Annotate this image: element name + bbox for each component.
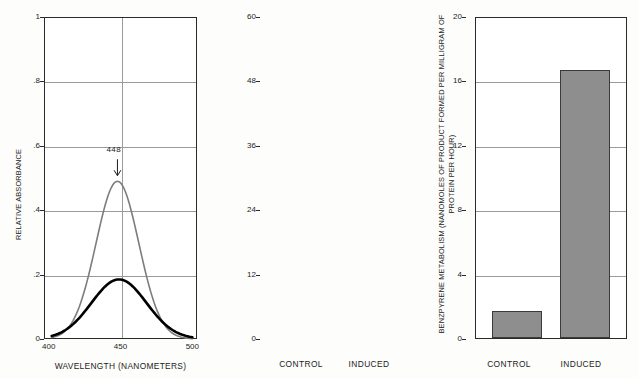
category-label-induced: INDUCED [329,359,409,369]
figure-three-panel: RELATIVE ABSORBANCE 448 WAVELENGTH (NANO… [0,0,639,379]
y-tick-label-panel-1: .2 [14,270,40,279]
panel-benzpyrene-nanomoles: BENZPYRENE METABOLISM (NANOMOLES OF PROD… [215,0,422,379]
panel-absorbance-spectrum: RELATIVE ABSORBANCE 448 WAVELENGTH (NANO… [0,0,215,379]
y-tick-mark-panel-3 [462,339,466,340]
peak-annotation-label: 448 [106,145,121,154]
y-tick-mark-panel-3 [462,17,466,18]
y-tick-label-panel-2: 12 [230,270,256,279]
y-tick-label-panel-3: 0 [436,334,462,343]
x-tick-label-panel-1: 450 [111,342,131,351]
y-tick-label-panel-3: 16 [436,76,462,85]
y-tick-mark-panel-3 [462,81,466,82]
panel-benzpyrene-picomoles: BENZPYRENE METABOLISM (PICOMOLES OF PROD… [422,0,639,379]
y-tick-mark-panel-2 [256,81,260,82]
y-tick-label-panel-2: 0 [230,334,256,343]
y-tick-label-panel-3: 12 [436,141,462,150]
y-tick-label-panel-3: 4 [436,270,462,279]
y-tick-label-panel-2: 36 [230,141,256,150]
y-tick-mark-panel-2 [256,275,260,276]
y-tick-mark-panel-3 [462,210,466,211]
y-tick-label-panel-2: 60 [230,12,256,21]
y-tick-mark-panel-3 [462,146,466,147]
y-tick-label-panel-1: 0 [14,334,40,343]
spectrum-curve-control [52,279,193,337]
category-label-induced: INDUCED [541,359,621,369]
y-tick-label-panel-1: 1 [14,12,40,21]
y-tick-mark-panel-2 [256,146,260,147]
y-tick-mark-panel-2 [256,17,260,18]
y-tick-label-panel-2: 24 [230,205,256,214]
y-tick-mark-panel-1 [40,339,44,340]
y-tick-mark-panel-1 [40,81,44,82]
y-tick-label-panel-1: .8 [14,76,40,85]
spectrum-curve-induced [52,181,193,338]
x-tick-label-panel-1: 500 [179,342,199,351]
y-tick-mark-panel-2 [256,210,260,211]
y-tick-label-panel-2: 48 [230,76,256,85]
y-tick-mark-panel-1 [40,210,44,211]
y-tick-label-panel-3: 20 [436,12,462,21]
y-tick-label-panel-3: 8 [436,205,462,214]
y-tick-mark-panel-1 [40,17,44,18]
category-label-control: CONTROL [469,359,549,369]
x-tick-label-panel-1: 400 [42,342,62,351]
y-tick-mark-panel-3 [462,275,466,276]
y-tick-label-panel-1: .4 [14,205,40,214]
y-tick-label-panel-1: .6 [14,141,40,150]
y-tick-mark-panel-1 [40,275,44,276]
peak-annotation-arrow-icon [114,159,121,176]
x-axis-title-panel-1: WAVELENGTH (NANOMETERS) [44,361,197,371]
y-tick-mark-panel-1 [40,146,44,147]
y-tick-mark-panel-2 [256,339,260,340]
